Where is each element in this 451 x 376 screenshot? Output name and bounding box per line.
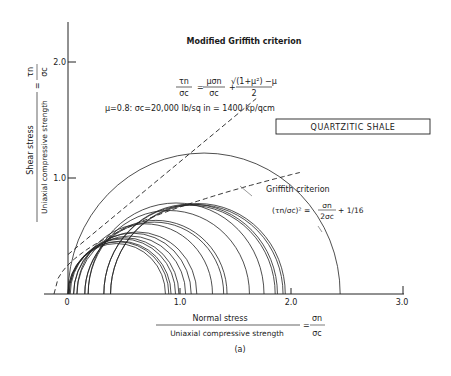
eq-term: √(1+μ²) −μ <box>231 77 277 86</box>
y-axis-label-denominator: Uniaxial compressive strength <box>40 100 49 214</box>
mohr-circle <box>68 153 340 294</box>
eq-equals: = <box>197 83 204 92</box>
x-symbol: σn <box>312 314 322 323</box>
x-axis-label-numerator: Normal stress <box>192 314 247 323</box>
mohr-circle <box>69 241 171 294</box>
figure-label: (a) <box>234 345 245 354</box>
modified-griffith-envelope <box>68 99 256 255</box>
x-eq-sign: = <box>303 321 310 330</box>
eq-term: (τn/σc)² = <box>272 206 310 215</box>
griffith-equation: (τn/σc)² = σn 2σc + 1/16 <box>272 201 364 221</box>
rock-type-label: QUARTZITIC SHALE <box>311 123 396 132</box>
y-tick-label: 2.0 <box>53 58 66 67</box>
x-tick-label: 3.0 <box>396 298 409 307</box>
griffith-eq-leader <box>318 226 322 232</box>
mohr-circles <box>68 153 340 294</box>
x-tick-label: 0 <box>64 298 69 307</box>
eq-term: σc <box>179 89 188 98</box>
griffith-label: Griffith criterion <box>266 185 330 194</box>
modified-griffith-equation: τn σc = μσn σc + √(1+μ²) −μ 2 <box>176 77 277 98</box>
mohr-circle <box>88 203 264 294</box>
eq-term: σn <box>322 201 332 210</box>
chart-canvas: 0 1.0 2.0 3.0 1.0 2.0 Modified Griffith … <box>0 0 451 376</box>
y-axis-label: Shear stress Uniaxial compressive streng… <box>26 64 49 222</box>
x-tick-label: 2.0 <box>285 298 298 307</box>
y-symbol: τn <box>26 67 35 77</box>
eq-term: 2σc <box>320 212 334 221</box>
mohr-circle <box>104 204 278 294</box>
eq-term: σc <box>209 89 218 98</box>
y-tick-label: 1.0 <box>53 174 66 183</box>
eq-term: 2 <box>251 89 256 98</box>
x-symbol: σc <box>312 329 321 338</box>
chart-title: Modified Griffith criterion <box>187 37 302 46</box>
y-symbol: σc <box>40 67 49 76</box>
mohr-circle-figure: 0 1.0 2.0 3.0 1.0 2.0 Modified Griffith … <box>0 0 451 376</box>
eq-term: + 1/16 <box>338 206 364 215</box>
y-eq-sign: = <box>33 82 42 89</box>
mohr-circle <box>70 238 179 294</box>
griffith-leader-line <box>240 186 252 196</box>
eq-term: μσn <box>206 77 221 86</box>
x-tick-label: 1.0 <box>174 298 187 307</box>
parameters-text: μ=0.8: σc=20,000 lb/sq in = 1400 kp/qcm <box>105 104 275 113</box>
mohr-circle <box>68 244 165 294</box>
x-axis-label-denominator: Uniaxial compressive strength <box>170 329 284 338</box>
y-axis-label-numerator: Shear stress <box>26 125 35 174</box>
mohr-circle <box>85 220 227 294</box>
eq-term: τn <box>179 77 189 86</box>
